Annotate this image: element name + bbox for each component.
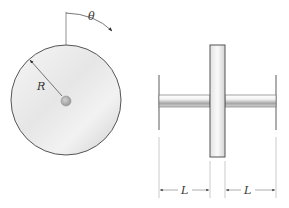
front-view: θ R <box>11 10 121 155</box>
theta-label: θ <box>88 10 95 23</box>
shaft-right <box>225 95 276 107</box>
torsional-pendulum-diagram: θ R L L <box>0 0 289 208</box>
side-view: L L <box>159 45 276 198</box>
shaft-left <box>159 95 210 107</box>
hub <box>61 96 71 106</box>
rotor-disk <box>210 45 225 157</box>
length-label-right: L <box>243 184 251 197</box>
length-label-left: L <box>180 184 188 197</box>
radius-label: R <box>36 80 45 93</box>
